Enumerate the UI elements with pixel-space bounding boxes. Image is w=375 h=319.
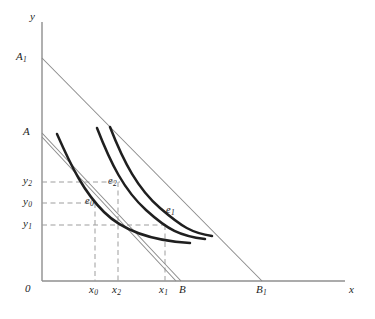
y-intercept-a1-label: A1	[16, 51, 26, 62]
y-axis-label: y	[30, 11, 35, 22]
x-intercept-b1-label: B1	[256, 284, 266, 295]
equilibrium-e1-label: e1	[166, 205, 174, 216]
plot-canvas	[0, 0, 375, 319]
equilibrium-e0-label: e0	[85, 196, 93, 207]
y-intercept-a-label: A	[23, 126, 30, 137]
y-tick-y0-label: y0	[23, 196, 32, 207]
x-tick-x1-label: x1	[159, 284, 168, 295]
indifference-curves-group	[57, 127, 212, 243]
equilibrium-e2-label: e2	[108, 176, 116, 187]
y-tick-y2-label: y2	[23, 175, 32, 186]
x-axis-label: x	[349, 284, 354, 295]
axes-group	[42, 22, 345, 281]
indifference-curve-u1	[110, 127, 212, 236]
x-intercept-b-label: B	[179, 284, 186, 295]
y-tick-y1-label: y1	[23, 218, 32, 229]
indifference-curve-figure: y x 0 A1 A B B1 y2 y0 y1 x0 x2 x1 e0 e2 …	[0, 0, 375, 319]
x-tick-x2-label: x2	[112, 284, 121, 295]
origin-label: 0	[25, 283, 31, 294]
x-tick-x0-label: x0	[89, 284, 98, 295]
